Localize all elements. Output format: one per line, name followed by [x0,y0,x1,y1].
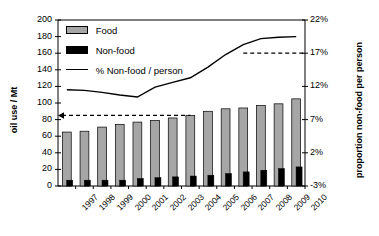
bar-food [186,115,195,186]
bar-food [204,111,213,186]
oil-use-chart: oil use / Mt proportion non-food per per… [0,0,379,236]
bar-non-food [208,175,214,186]
bar-non-food [243,172,249,186]
bar-non-food [190,176,196,186]
bar-non-food [120,180,126,186]
bar-non-food [261,170,267,186]
bar-food [98,127,107,186]
bar-food [133,122,142,186]
bar-food [168,118,177,186]
bar-food [151,120,160,186]
legend-item-non-food: Non-food [66,44,135,56]
legend-label-non-food: Non-food [96,45,135,56]
legend-label-food: Food [96,25,118,36]
annotation-arrowhead-left-icon [58,112,64,118]
bar-non-food [226,174,232,186]
bar-non-food [102,180,108,186]
legend-swatch-food-icon [66,26,88,34]
bar-non-food [137,179,143,186]
legend-line-marker-icon [66,69,88,70]
bar-non-food [67,180,73,186]
bar-food [80,131,89,186]
bar-food [62,132,71,186]
bar-food [115,125,124,186]
bar-non-food [173,177,179,186]
legend-label-percent-non-food-per-person: % Non-food / person [96,65,183,76]
bar-non-food [296,167,302,186]
legend-item-food: Food [66,24,117,36]
bar-non-food [278,169,284,186]
bar-non-food [84,180,90,186]
legend-item-percent-non-food-per-person: % Non-food / person [66,64,183,76]
plot-area [0,0,379,236]
bar-non-food [155,178,161,186]
legend-swatch-non-food-icon [66,46,88,54]
